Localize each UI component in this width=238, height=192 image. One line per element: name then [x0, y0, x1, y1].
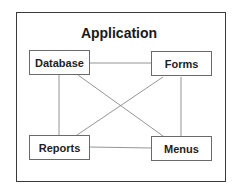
node-database-label: Database	[35, 57, 84, 69]
node-menus-label: Menus	[164, 143, 199, 155]
node-reports-label: Reports	[39, 142, 81, 154]
node-database: Database	[29, 50, 90, 75]
edge-reports-menus	[89, 147, 151, 148]
node-reports: Reports	[29, 135, 90, 160]
node-forms-label: Forms	[165, 58, 199, 70]
node-menus: Menus	[151, 136, 212, 161]
connector-lines	[0, 0, 238, 192]
node-forms: Forms	[151, 51, 212, 76]
